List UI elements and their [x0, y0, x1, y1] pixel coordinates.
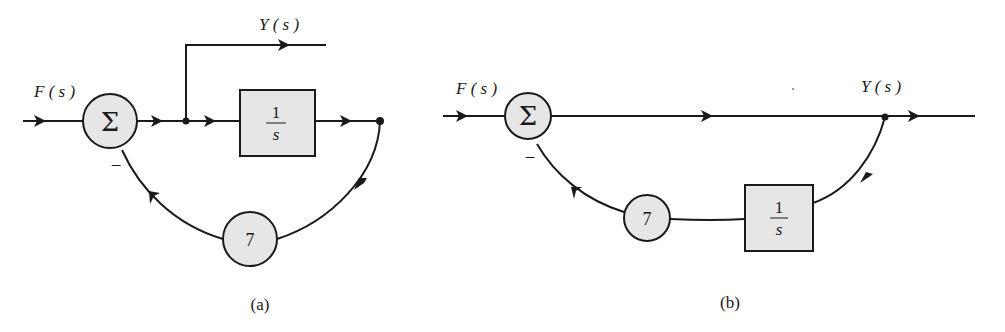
arrow-icon [860, 172, 873, 183]
minus-sign-a: – [111, 154, 121, 173]
block-denominator-b: s [776, 220, 783, 239]
feedback-wire-left-b [537, 144, 624, 212]
minus-sign-b: – [525, 146, 535, 165]
block-numerator-b: 1 [775, 198, 784, 217]
input-label-b: F ( s ) [455, 79, 497, 98]
sigma-icon: Σ [519, 101, 537, 131]
block-to-gain-wire-b [670, 219, 745, 220]
panel-b: F ( s ) Σ – Y ( s ) 1 s 7 (b) [443, 77, 975, 312]
caption-a: (a) [251, 295, 270, 314]
block-denominator-a: s [273, 125, 280, 144]
output-label-b: Y ( s ) [861, 77, 901, 96]
sigma-icon: Σ [101, 107, 119, 137]
stray-dot [792, 88, 794, 90]
block-numerator-a: 1 [272, 103, 281, 122]
feedback-wire-right-b [813, 117, 885, 203]
input-label-a: F ( s ) [33, 82, 75, 101]
panel-a: F ( s ) Σ – Y ( s ) 1 s 7 (a) [23, 15, 384, 314]
output-label-a: Y ( s ) [259, 15, 299, 34]
feedback-wire-left-a [122, 150, 223, 239]
gain-value-b: 7 [643, 209, 652, 229]
gain-value-a: 7 [246, 230, 255, 250]
arrow-icon [571, 187, 582, 199]
block-diagram-canvas: F ( s ) Σ – Y ( s ) 1 s 7 (a) [0, 0, 1005, 332]
caption-b: (b) [720, 293, 740, 312]
